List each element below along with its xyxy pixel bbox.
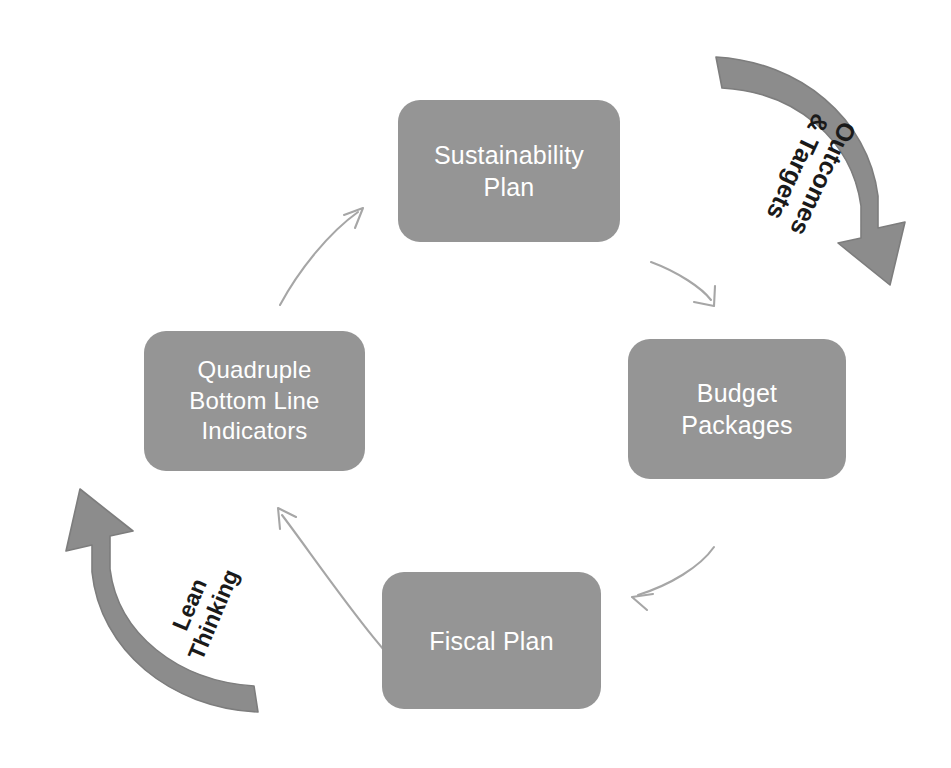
- connector-quadruple-to-sustainability: [280, 208, 363, 305]
- node-budget-packages[interactable]: Budget Packages: [628, 339, 846, 479]
- connector-sustainability-to-budget: [651, 262, 715, 306]
- connector-budget-to-fiscal: [632, 547, 714, 610]
- node-quadruple-bottom-line[interactable]: Quadruple Bottom Line Indicators: [144, 331, 365, 471]
- node-fiscal-plan[interactable]: Fiscal Plan: [382, 572, 601, 709]
- node-sustainability-plan[interactable]: Sustainability Plan: [398, 100, 620, 242]
